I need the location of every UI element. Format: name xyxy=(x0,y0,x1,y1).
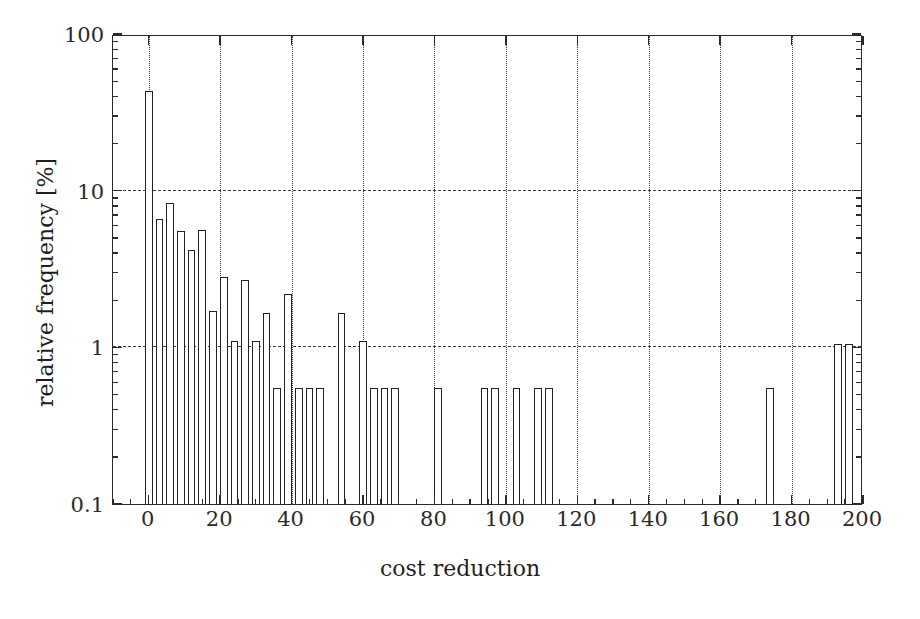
y-tick-label: 100 xyxy=(64,25,104,46)
y-tick-minor xyxy=(856,409,861,410)
x-tick-major xyxy=(791,495,793,504)
histogram-bar xyxy=(491,388,499,504)
x-tick-major-top xyxy=(148,36,150,45)
y-tick-minor xyxy=(856,300,861,301)
y-tick-minor xyxy=(113,143,118,144)
x-tick-label: 0 xyxy=(141,509,154,530)
x-axis-tick-labels: 020406080100120140160180200 xyxy=(112,509,862,543)
gridline-vertical xyxy=(577,36,578,504)
y-tick-minor xyxy=(856,354,861,355)
y-tick-minor xyxy=(113,429,118,430)
y-tick-minor xyxy=(856,143,861,144)
histogram-bar xyxy=(381,388,389,504)
y-tick-minor xyxy=(113,197,118,198)
x-tick-minor xyxy=(273,499,274,504)
x-tick-major xyxy=(505,495,507,504)
y-tick-minor xyxy=(113,394,118,395)
y-tick-label: 10 xyxy=(77,181,104,202)
x-tick-major xyxy=(434,495,436,504)
x-tick-major-top xyxy=(862,36,864,45)
histogram-bar xyxy=(766,388,774,504)
x-tick-minor xyxy=(452,499,453,504)
y-tick-major xyxy=(852,33,861,35)
histogram-bar xyxy=(145,91,153,504)
gridline-horizontal xyxy=(113,190,861,191)
y-tick-minor xyxy=(856,115,861,116)
x-tick-minor xyxy=(469,499,470,504)
histogram-bar xyxy=(545,388,553,504)
gridline-vertical xyxy=(506,36,507,504)
y-tick-minor xyxy=(113,252,118,253)
y-tick-minor xyxy=(113,96,118,97)
gridline-vertical xyxy=(649,36,650,504)
y-tick-minor xyxy=(856,272,861,273)
x-tick-minor xyxy=(523,499,524,504)
x-tick-minor xyxy=(237,499,238,504)
x-tick-minor xyxy=(809,499,810,504)
y-tick-minor xyxy=(856,205,861,206)
y-tick-major xyxy=(852,347,861,349)
y-tick-minor xyxy=(113,214,118,215)
y-tick-minor xyxy=(856,225,861,226)
y-tick-minor xyxy=(856,197,861,198)
x-tick-major xyxy=(648,495,650,504)
histogram-bar xyxy=(306,388,314,504)
histogram-bar xyxy=(220,277,228,504)
x-axis-title: cost reduction xyxy=(0,556,920,581)
plot-inner xyxy=(113,36,861,504)
x-tick-major-top xyxy=(291,36,293,45)
x-tick-label: 60 xyxy=(349,509,376,530)
y-tick-minor xyxy=(113,237,118,238)
y-tick-major xyxy=(113,190,122,192)
y-tick-minor xyxy=(856,429,861,430)
x-tick-major xyxy=(148,495,150,504)
y-tick-minor xyxy=(113,456,118,457)
x-tick-minor xyxy=(844,499,845,504)
histogram-bar xyxy=(252,341,260,504)
y-axis-title: relative frequency [%] xyxy=(33,133,58,433)
x-tick-label: 200 xyxy=(842,509,882,530)
x-tick-minor xyxy=(755,499,756,504)
x-tick-major xyxy=(219,495,221,504)
x-tick-minor xyxy=(594,499,595,504)
y-tick-major xyxy=(113,33,122,35)
y-tick-minor xyxy=(113,272,118,273)
x-tick-label: 120 xyxy=(556,509,596,530)
histogram-bar xyxy=(209,311,217,504)
histogram-bar xyxy=(241,280,249,504)
histogram-bar xyxy=(263,313,271,504)
gridline-vertical xyxy=(792,36,793,504)
y-tick-minor xyxy=(113,58,118,59)
x-tick-major-top xyxy=(362,36,364,45)
y-tick-minor xyxy=(856,362,861,363)
x-tick-major xyxy=(719,495,721,504)
x-tick-major-top xyxy=(505,36,507,45)
x-tick-label: 140 xyxy=(628,509,668,530)
x-tick-minor xyxy=(630,499,631,504)
x-tick-label: 160 xyxy=(699,509,739,530)
y-tick-major xyxy=(113,503,122,505)
y-tick-minor xyxy=(856,81,861,82)
y-tick-label: 1 xyxy=(91,338,104,359)
x-tick-minor xyxy=(827,499,828,504)
x-tick-label: 40 xyxy=(277,509,304,530)
x-tick-major-top xyxy=(434,36,436,45)
y-tick-minor xyxy=(856,68,861,69)
x-tick-minor xyxy=(398,499,399,504)
y-tick-minor xyxy=(113,225,118,226)
histogram-bar xyxy=(845,344,853,504)
x-tick-minor xyxy=(130,499,131,504)
y-tick-minor xyxy=(113,205,118,206)
y-tick-minor xyxy=(856,214,861,215)
y-tick-major xyxy=(852,503,861,505)
histogram-bar xyxy=(534,388,542,504)
x-tick-major-top xyxy=(719,36,721,45)
x-tick-label: 100 xyxy=(485,509,525,530)
x-tick-minor xyxy=(541,499,542,504)
gridline-vertical xyxy=(720,36,721,504)
x-tick-minor xyxy=(255,499,256,504)
y-tick-minor xyxy=(113,81,118,82)
y-tick-minor xyxy=(856,382,861,383)
histogram-bar xyxy=(338,313,346,504)
histogram-bar xyxy=(177,231,185,504)
